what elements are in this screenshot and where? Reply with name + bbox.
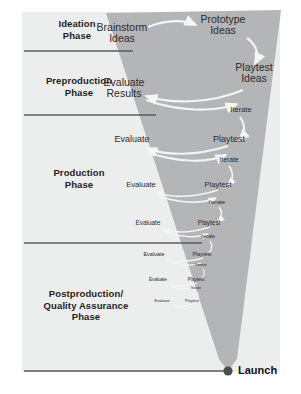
node-playtest-4: Playtest xyxy=(187,252,217,258)
node-brainstorm-ideas-line2: Ideas xyxy=(89,33,155,44)
node-iterate-4: Iterate xyxy=(195,234,221,239)
phase-label-production-line2: Phase xyxy=(22,179,136,191)
node-evaluate-2: Evaluate xyxy=(122,181,160,189)
node-brainstorm-ideas: Brainstorm Ideas xyxy=(89,22,155,45)
node-iterate-3: Iterate xyxy=(203,199,231,205)
node-playtest-2: Playtest xyxy=(199,181,237,189)
node-evaluate-6: Evaluate xyxy=(150,299,174,303)
node-iterate-2: Iterate xyxy=(213,156,245,163)
launch-label: Launch xyxy=(238,364,277,376)
node-playtest-5: Playtest xyxy=(183,278,209,283)
node-playtest-3: Playtest xyxy=(192,220,226,227)
node-evaluate-3: Evaluate xyxy=(131,220,165,227)
diagram-canvas: Ideation Phase Preproduction Phase Produ… xyxy=(0,0,301,394)
phase-label-postproduction-line1: Postproduction/ xyxy=(16,288,156,300)
phase-label-postproduction: Postproduction/ Quality Assurance Phase xyxy=(16,288,156,323)
arrow-playtest6-to-evaluate6 xyxy=(173,304,192,306)
funnel-graphics xyxy=(0,0,301,394)
node-playtest-1: Playtest xyxy=(207,135,251,145)
node-playtest-6: Playtest xyxy=(180,299,204,303)
phase-label-postproduction-line3: Phase xyxy=(16,311,156,323)
node-evaluate-5: Evaluate xyxy=(145,278,171,283)
node-iterate-1: Iterate xyxy=(224,106,258,114)
node-evaluate-4: Evaluate xyxy=(139,252,169,258)
node-iterate-6: Iterate xyxy=(185,287,207,291)
node-evaluate-results-line2: Results xyxy=(96,88,152,99)
node-iterate-5: Iterate xyxy=(189,263,213,268)
node-prototype-ideas-line2: Ideas xyxy=(193,25,253,36)
node-evaluate-results: Evaluate Results xyxy=(96,77,152,100)
node-playtest-ideas: Playtest Ideas xyxy=(226,62,282,85)
node-prototype-ideas: Prototype Ideas xyxy=(193,14,253,37)
phase-label-postproduction-line2: Quality Assurance xyxy=(16,300,156,312)
node-playtest-ideas-line2: Ideas xyxy=(226,73,282,84)
phase-label-production: Production Phase xyxy=(22,167,136,190)
launch-dot-icon xyxy=(223,366,232,375)
node-evaluate-1: Evaluate xyxy=(110,135,154,145)
phase-label-production-line1: Production xyxy=(22,167,136,179)
